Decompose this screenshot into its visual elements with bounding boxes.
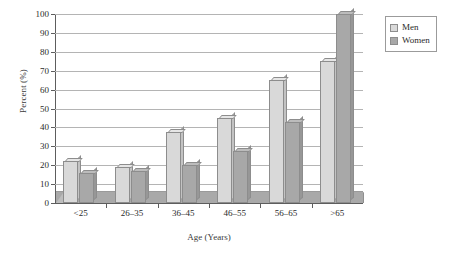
bar-side-face	[300, 116, 303, 200]
x-axis-tick-mark	[260, 204, 261, 208]
x-axis-tick-label: 46–55	[223, 208, 246, 218]
bar-side-face	[248, 145, 251, 200]
y-axis-tick-label: 10	[40, 180, 49, 189]
x-axis-tick-label: 26–35	[121, 208, 144, 218]
bar-front-face	[320, 61, 335, 203]
bar-front-face	[79, 173, 94, 203]
x-axis-tick-mark	[158, 204, 159, 208]
legend-label-men: Men	[402, 23, 419, 32]
y-axis-tick-label: 20	[40, 161, 49, 170]
bar-men-1	[115, 167, 130, 203]
bar-men-0	[63, 161, 78, 203]
bar-front-face	[182, 165, 197, 203]
bar-group	[217, 14, 248, 203]
legend-label-women: Women	[402, 36, 430, 45]
x-axis-tick-label: 56–65	[275, 208, 298, 218]
bar-front-face	[63, 161, 78, 203]
plot-area: 0102030405060708090100	[55, 14, 363, 204]
bar-men-4	[269, 80, 284, 203]
legend-item-men: Men	[390, 21, 430, 34]
x-axis-tick-mark	[209, 204, 210, 208]
bar-front-face	[115, 167, 130, 203]
bar-group	[320, 14, 351, 203]
x-axis-title: Age (Years)	[55, 232, 363, 242]
bar-group	[63, 14, 94, 203]
bar-group	[269, 14, 300, 203]
bar-group	[166, 14, 197, 203]
y-axis-tick-label: 70	[40, 66, 49, 75]
y-axis-tick-label: 40	[40, 123, 49, 132]
y-axis-tick-label: 90	[40, 28, 49, 37]
bar-front-face	[233, 151, 248, 203]
bar-men-2	[166, 132, 181, 203]
bar-front-face	[166, 132, 181, 203]
y-axis-tick-label: 30	[40, 142, 49, 151]
bars-layer	[55, 14, 363, 204]
bar-chart: Percent (%) 0102030405060708090100 <2526…	[0, 0, 457, 264]
bar-women-4	[285, 122, 300, 203]
x-axis-tick-mark	[106, 204, 107, 208]
bar-women-2	[182, 165, 197, 203]
bar-women-5	[336, 14, 351, 203]
bar-men-5	[320, 61, 335, 203]
bar-front-face	[217, 118, 232, 203]
x-axis-tick-label: 36–45	[172, 208, 195, 218]
legend: Men Women	[385, 16, 437, 52]
bar-men-3	[217, 118, 232, 203]
legend-swatch-women-icon	[390, 37, 398, 45]
bar-women-3	[233, 151, 248, 203]
bar-women-0	[79, 173, 94, 203]
x-axis-tick-mark	[312, 204, 313, 208]
legend-swatch-men-icon	[390, 24, 398, 32]
bar-front-face	[131, 171, 146, 203]
bar-side-face	[351, 8, 354, 200]
y-axis-title: Percent (%)	[18, 46, 28, 136]
y-axis-tick-label: 80	[40, 47, 49, 56]
bar-front-face	[269, 80, 284, 203]
x-axis-tick-label: <25	[74, 208, 88, 218]
chart-floor-right-bevel	[363, 192, 374, 203]
y-axis-tick-label: 100	[36, 10, 50, 19]
y-axis-tick-label: 60	[40, 85, 49, 94]
bar-front-face	[285, 122, 300, 203]
x-axis-tick-label: >65	[330, 208, 344, 218]
y-axis-tick-label: 50	[40, 104, 49, 113]
legend-item-women: Women	[390, 34, 430, 47]
bar-front-face	[336, 14, 351, 203]
y-axis-tick-label: 0	[45, 199, 50, 208]
bar-group	[115, 14, 146, 203]
bar-women-1	[131, 171, 146, 203]
